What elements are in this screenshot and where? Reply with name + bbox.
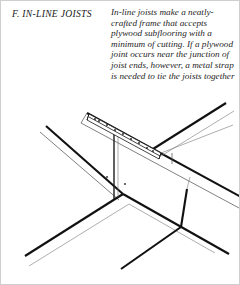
header-row: F. IN-LINE JOISTS In-line joists make a …: [1, 1, 240, 121]
joist-left: [40, 126, 123, 200]
joist-stub-right: [161, 125, 233, 164]
girder-beam: [81, 113, 240, 208]
joist-lower-left: [25, 194, 129, 266]
support-post: [114, 129, 118, 199]
joist-branch-up: [181, 177, 190, 227]
page-title: F. IN-LINE JOISTS: [12, 8, 107, 19]
body-paragraph: In-line joists make a neatly-crafted fra…: [111, 7, 237, 81]
joist-branch-left: [121, 227, 181, 269]
joist-lower-right: [123, 194, 229, 254]
fastener-dots: [106, 176, 126, 185]
illustration-page: F. IN-LINE JOISTS In-line joists make a …: [0, 0, 240, 285]
